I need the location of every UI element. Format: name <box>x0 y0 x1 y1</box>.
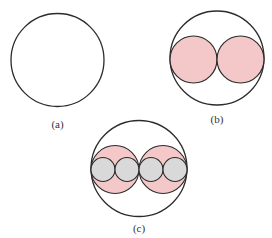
panel-c: (c) <box>91 121 187 236</box>
panel-a: (a) <box>11 14 104 132</box>
gray-circle-c-2 <box>115 158 139 182</box>
outer-circle-a <box>11 14 104 107</box>
pink-circle-b-right <box>217 36 264 83</box>
pink-circle-b-left <box>170 36 217 83</box>
label-c: (c) <box>133 222 146 235</box>
nested-circles-diagram: (a) (b) (c) <box>0 0 272 238</box>
panel-b: (b) <box>170 11 264 126</box>
label-a: (a) <box>51 118 64 131</box>
gray-circle-c-3 <box>139 158 163 182</box>
gray-circle-c-4 <box>163 158 187 182</box>
label-b: (b) <box>211 113 224 126</box>
gray-circle-c-1 <box>91 158 115 182</box>
